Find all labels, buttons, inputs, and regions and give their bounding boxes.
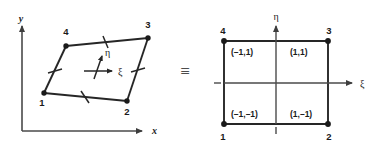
parent-node-label-1: 1 (220, 131, 226, 142)
parent-node-dot-1 (221, 121, 227, 127)
element-edge-4-1 (44, 46, 66, 93)
y-axis-label: y (18, 13, 24, 24)
parent-node-label-3: 3 (326, 25, 331, 36)
physical-node-dot-1 (41, 90, 46, 95)
physical-node-dot-3 (145, 35, 150, 40)
physical-node-label-1: 1 (39, 97, 45, 108)
figure-canvas: y x 1 2 3 4 ξ η (0, 0, 376, 153)
parent-node-dot-4 (221, 38, 227, 44)
physical-node-dot-4 (63, 43, 68, 48)
parent-element-group: η ξ 1 2 3 4 (–1,1) (1,1) (–1,–1) (1,–1) (214, 11, 365, 142)
local-xi-label: ξ (118, 66, 123, 78)
parent-node-label-4: 4 (220, 25, 226, 36)
parent-node-dot-2 (325, 121, 331, 127)
physical-node-label-3: 3 (145, 19, 150, 30)
physical-element-group: y x 1 2 3 4 ξ η (18, 13, 157, 136)
xi-axis-label: ξ (360, 78, 365, 90)
parent-node-coord-3: (1,1) (290, 47, 308, 57)
physical-node-label-2: 2 (124, 106, 129, 117)
local-eta-label: η (105, 47, 110, 58)
x-axis-label: x (151, 125, 157, 136)
physical-node-dot-2 (124, 98, 129, 103)
parent-node-dot-3 (325, 38, 331, 44)
parent-node-label-2: 2 (326, 131, 331, 142)
isoparametric-mapping-figure: y x 1 2 3 4 ξ η (0, 0, 376, 153)
parent-node-coord-2: (1,–1) (290, 109, 312, 119)
parent-node-coord-4: (–1,1) (231, 47, 253, 57)
local-eta-axis (94, 56, 102, 79)
physical-node-label-4: 4 (63, 26, 69, 37)
eta-axis-label: η (273, 11, 278, 22)
parent-node-coord-1: (–1,–1) (231, 109, 258, 119)
equivalence-symbol: ≡ (180, 62, 190, 81)
